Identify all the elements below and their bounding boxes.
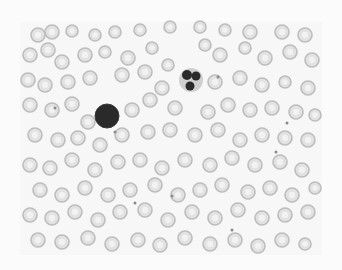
rbc — [55, 235, 69, 249]
rbc — [153, 238, 167, 252]
rbc — [178, 231, 192, 245]
rbc — [66, 25, 78, 37]
rbc — [243, 103, 257, 117]
rbc — [55, 55, 69, 69]
rbc — [125, 103, 139, 117]
rbc — [31, 28, 45, 42]
platelet — [134, 202, 137, 205]
rbc — [65, 97, 79, 111]
rbc — [113, 205, 127, 219]
rbc — [255, 128, 269, 142]
rbc — [141, 125, 155, 139]
rbc — [265, 101, 279, 115]
neutrophil-nuclear-lobe — [192, 72, 201, 81]
neutrophil-nuclear-lobe — [186, 82, 195, 91]
rbc — [241, 185, 255, 199]
rbc — [111, 155, 125, 169]
rbc — [38, 78, 52, 92]
rbc — [101, 188, 115, 202]
rbc — [298, 28, 312, 42]
rbc — [45, 25, 59, 39]
rbc — [81, 115, 95, 129]
rbc — [131, 233, 145, 247]
rbc — [203, 158, 217, 172]
rbc — [275, 233, 289, 247]
rbc — [299, 238, 311, 250]
rbc — [51, 133, 65, 147]
blood-smear-image — [0, 0, 342, 270]
platelet — [286, 122, 289, 125]
rbc — [115, 68, 129, 82]
rbc — [68, 205, 82, 219]
rbc — [279, 76, 291, 88]
rbc — [273, 155, 287, 169]
rbc — [178, 153, 192, 167]
rbc — [43, 161, 57, 175]
rbc — [109, 26, 121, 38]
neutrophil-cell — [179, 68, 203, 92]
rbc — [121, 51, 135, 65]
neutrophil-nuclear-lobe — [182, 70, 192, 80]
platelet — [275, 151, 278, 154]
rbc — [78, 181, 92, 195]
rbc — [105, 237, 119, 251]
rbc — [233, 133, 247, 147]
rbc — [83, 71, 97, 85]
rbc — [89, 29, 101, 41]
rbc — [309, 182, 321, 194]
rbc — [28, 128, 42, 142]
rbc — [275, 25, 289, 39]
rbc — [23, 208, 37, 222]
rbc — [138, 203, 152, 217]
rbc — [201, 105, 215, 119]
rbc — [78, 48, 92, 62]
rbc — [115, 128, 129, 142]
rbc — [143, 93, 157, 107]
rbc — [23, 158, 37, 172]
rbc — [255, 211, 269, 225]
rbc — [65, 153, 79, 167]
rbc — [248, 158, 262, 172]
rbc — [161, 213, 175, 227]
rbc — [163, 123, 177, 137]
rbc — [164, 21, 176, 33]
rbc — [203, 237, 217, 251]
platelet — [217, 76, 220, 79]
rbc — [134, 24, 146, 36]
rbc — [301, 205, 315, 219]
rbc — [168, 101, 182, 115]
rbc — [309, 109, 321, 121]
rbc — [285, 188, 299, 202]
lymphocyte-nucleus — [95, 104, 119, 128]
rbc — [231, 203, 245, 217]
rbc — [219, 24, 231, 36]
rbc — [93, 138, 107, 152]
rbc — [194, 21, 206, 33]
rbc — [23, 98, 37, 112]
rbc — [88, 163, 102, 177]
rbc — [33, 183, 47, 197]
rbc — [133, 153, 147, 167]
rbc — [239, 42, 251, 54]
rbc — [61, 75, 75, 89]
rbc — [295, 163, 309, 177]
platelet — [231, 229, 234, 232]
rbc — [45, 103, 59, 117]
rbc — [263, 181, 277, 195]
rbc — [208, 75, 222, 89]
rbc — [211, 123, 225, 137]
rbc — [155, 161, 169, 175]
rbc — [146, 42, 158, 54]
rbc — [233, 71, 247, 85]
rbc — [185, 205, 199, 219]
rbc — [255, 78, 269, 92]
rbc — [305, 53, 319, 67]
rbc — [193, 183, 207, 197]
rbc — [123, 183, 137, 197]
rbc — [225, 151, 239, 165]
rbc — [148, 178, 162, 192]
rbc — [278, 208, 292, 222]
rbc — [71, 131, 85, 145]
rbc — [258, 51, 272, 65]
rbc — [45, 211, 59, 225]
